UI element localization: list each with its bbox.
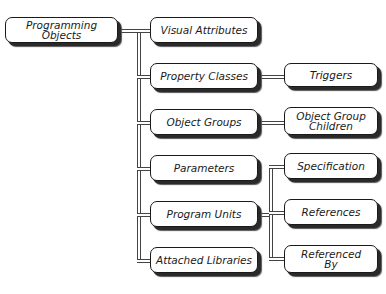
node-program-units: Program Units	[150, 201, 258, 227]
connector-object-groups	[137, 121, 151, 125]
connector-attached-libraries	[137, 259, 151, 263]
node-label: Program Units	[167, 209, 242, 219]
node-property-classes: Property Classes	[150, 63, 258, 89]
node-label: Programming Objects	[6, 20, 117, 40]
node-label: Specification	[297, 161, 365, 171]
node-object-groups: Object Groups	[150, 109, 258, 135]
node-visual-attributes: Visual Attributes	[150, 17, 258, 43]
connector-trunk	[137, 29, 141, 263]
node-object-group-children: Object Group Children	[284, 107, 378, 135]
connector-references	[269, 211, 285, 215]
node-label: Property Classes	[160, 71, 248, 81]
node-referenced-by: Referenced By	[284, 245, 378, 273]
node-parameters: Parameters	[150, 155, 258, 181]
node-label: Triggers	[310, 70, 352, 80]
connector-visual-attributes	[137, 29, 151, 33]
node-label-line2: Children	[309, 121, 353, 131]
node-attached-libraries: Attached Libraries	[150, 247, 258, 273]
node-label: Attached Libraries	[156, 255, 252, 265]
connector-program-units	[137, 213, 151, 217]
node-programming-objects: Programming Objects	[5, 17, 118, 43]
node-label: Object Groups	[166, 117, 241, 127]
connector-object-group-children	[259, 121, 285, 125]
node-specification: Specification	[284, 153, 378, 179]
node-label: References	[301, 207, 360, 217]
connector-triggers	[259, 75, 285, 79]
node-triggers: Triggers	[284, 63, 378, 87]
connector-specification	[269, 165, 285, 169]
node-label: Parameters	[174, 163, 235, 173]
node-label-line2: By	[324, 259, 337, 269]
connector-property-classes	[137, 75, 151, 79]
node-label: Visual Attributes	[161, 25, 248, 35]
connector-referenced-by	[269, 257, 285, 261]
node-references: References	[284, 199, 378, 225]
connector-parameters	[137, 167, 151, 171]
